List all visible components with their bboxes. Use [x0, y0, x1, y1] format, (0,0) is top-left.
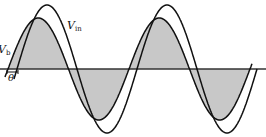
waveform-plot: [0, 0, 266, 137]
waveform-diagram: Vin Vb θ: [0, 0, 266, 137]
theta-label: θ: [8, 73, 14, 83]
vin-label-main: V: [67, 19, 75, 32]
vin-label: Vin: [67, 20, 82, 33]
vb-label: Vb: [0, 44, 10, 57]
vin-label-sub: in: [75, 25, 82, 33]
vb-label-sub: b: [6, 49, 10, 57]
